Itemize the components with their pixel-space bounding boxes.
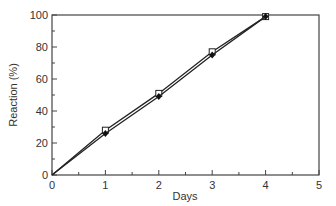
x-axis-title: Days: [172, 190, 198, 202]
x-tick-label: 5: [316, 179, 322, 191]
y-tick-label: 40: [36, 105, 48, 117]
x-tick-label: 3: [209, 179, 215, 191]
y-axis: 020406080100: [30, 9, 57, 181]
line-chart: 020406080100 012345 Days Reaction (%): [0, 0, 336, 206]
plot-border: [52, 15, 319, 175]
x-tick-label: 2: [156, 179, 162, 191]
x-axis: 012345: [49, 170, 322, 191]
y-tick-label: 100: [30, 9, 48, 21]
plot-frame: [52, 15, 319, 175]
x-tick-label: 1: [102, 179, 108, 191]
x-tick-label: 0: [49, 179, 55, 191]
y-axis-title: Reaction (%): [7, 63, 19, 127]
x-tick-label: 4: [263, 179, 269, 191]
y-tick-label: 20: [36, 137, 48, 149]
y-tick-label: 0: [42, 169, 48, 181]
series-layer: [52, 13, 269, 175]
y-tick-label: 80: [36, 41, 48, 53]
y-tick-label: 60: [36, 73, 48, 85]
